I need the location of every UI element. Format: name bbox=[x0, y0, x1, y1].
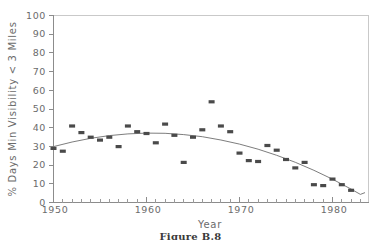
data-point bbox=[88, 136, 94, 139]
data-point bbox=[60, 150, 66, 153]
x-axis-title: Year bbox=[197, 219, 222, 230]
data-point bbox=[144, 132, 150, 135]
y-axis-tick-labels: 0 10 20 30 40 50 60 70 80 90 100 bbox=[26, 10, 46, 208]
data-point bbox=[302, 161, 308, 164]
data-point bbox=[190, 136, 196, 139]
x-tick-label-1980: 1980 bbox=[321, 204, 348, 215]
x-tick-label-1950: 1950 bbox=[42, 204, 69, 215]
y-tick-label-70: 70 bbox=[33, 66, 46, 77]
x-axis-minor-ticks bbox=[63, 199, 361, 203]
data-point bbox=[227, 130, 233, 133]
data-point bbox=[171, 134, 177, 137]
axis-left-bottom bbox=[54, 16, 369, 203]
y-tick-label-50: 50 bbox=[33, 103, 46, 114]
data-point bbox=[330, 178, 336, 181]
data-point bbox=[292, 166, 298, 169]
y-tick-label-60: 60 bbox=[33, 85, 46, 96]
data-point bbox=[106, 136, 112, 139]
data-point bbox=[199, 128, 205, 131]
figure-caption: Figure B.8 bbox=[0, 231, 381, 240]
data-point bbox=[69, 124, 75, 127]
fitted-trend-curve bbox=[54, 133, 366, 194]
data-point bbox=[274, 149, 280, 152]
data-point bbox=[311, 183, 317, 186]
data-point bbox=[125, 124, 131, 127]
visibility-scatter-chart: 0 10 20 30 40 50 60 70 80 90 100 bbox=[0, 0, 381, 240]
data-point bbox=[51, 147, 57, 150]
y-tick-label-30: 30 bbox=[33, 141, 46, 152]
data-point-series bbox=[51, 100, 355, 192]
data-point bbox=[153, 141, 159, 144]
data-point bbox=[78, 131, 84, 134]
y-axis-title: % Days Min Visibility < 3 Miles bbox=[7, 21, 18, 196]
data-point bbox=[209, 100, 215, 103]
data-point bbox=[264, 144, 270, 147]
y-axis-ticks bbox=[49, 16, 54, 203]
y-tick-label-10: 10 bbox=[33, 178, 46, 189]
data-point bbox=[116, 145, 122, 148]
data-point bbox=[181, 161, 187, 164]
data-point bbox=[237, 152, 243, 155]
data-point bbox=[320, 184, 326, 187]
x-axis-tick-labels: 1950 1960 1970 1980 bbox=[42, 204, 348, 215]
data-point bbox=[162, 123, 168, 126]
x-tick-label-1970: 1970 bbox=[228, 204, 255, 215]
y-tick-label-80: 80 bbox=[33, 47, 46, 58]
y-tick-label-20: 20 bbox=[33, 159, 46, 170]
data-point bbox=[246, 159, 252, 162]
data-point bbox=[348, 189, 354, 192]
data-point bbox=[255, 160, 261, 163]
frame-top-right bbox=[54, 16, 369, 203]
x-tick-label-1960: 1960 bbox=[135, 204, 162, 215]
y-tick-label-90: 90 bbox=[33, 28, 46, 39]
data-point bbox=[283, 158, 289, 161]
y-tick-label-100: 100 bbox=[26, 10, 46, 21]
figure-container: 0 10 20 30 40 50 60 70 80 90 100 bbox=[0, 0, 381, 240]
y-tick-label-40: 40 bbox=[33, 122, 46, 133]
plot-frame bbox=[54, 16, 369, 203]
data-point bbox=[97, 139, 103, 142]
data-point bbox=[218, 124, 224, 127]
data-point bbox=[134, 130, 140, 133]
data-point bbox=[339, 183, 345, 186]
